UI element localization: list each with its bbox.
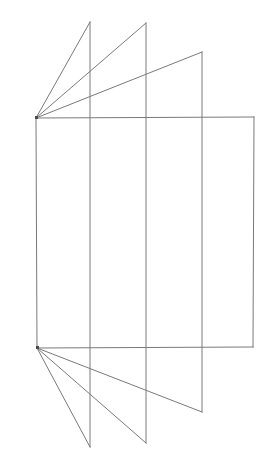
canvas-background — [0, 0, 271, 465]
top-apex-vertex-mark — [35, 116, 38, 119]
drawing-canvas — [0, 0, 271, 465]
bottom-apex-vertex-mark — [36, 346, 39, 349]
figure-svg — [0, 0, 271, 465]
